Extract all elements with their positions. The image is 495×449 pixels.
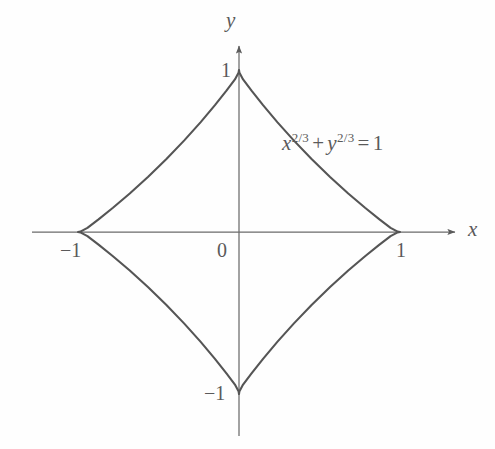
equation-base-y: y (327, 131, 337, 155)
x-tick-label-negative-one: −1 (60, 240, 81, 260)
equation-base-x: x (282, 131, 292, 155)
equation-exponent-x: 2/3 (292, 130, 310, 145)
x-tick-label-positive-one: 1 (396, 240, 406, 260)
equation-exponent-y: 2/3 (337, 130, 355, 145)
astroid-figure: y x 1 −1 1 −1 0 x2/3+y2/3=1 (0, 0, 495, 449)
equation-plus-operator: + (309, 131, 327, 155)
y-tick-label-positive-one: 1 (221, 60, 231, 80)
plot-canvas (0, 0, 495, 449)
equation-right-hand-side: 1 (373, 131, 384, 155)
curve-equation-annotation: x2/3+y2/3=1 (282, 133, 383, 154)
y-axis-label: y (226, 10, 235, 31)
equation-equals-operator: = (355, 131, 373, 155)
y-tick-label-negative-one: −1 (204, 383, 225, 403)
x-axis-label: x (468, 219, 477, 240)
origin-label: 0 (217, 240, 227, 260)
